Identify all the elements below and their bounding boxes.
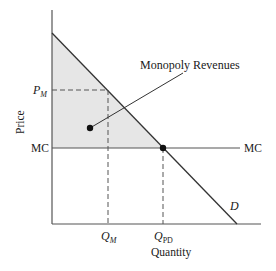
annotation-label: Monopoly Revenues xyxy=(140,58,240,72)
monopoly-diagram: Monopoly Revenues PM MC MC D QM QPD Quan… xyxy=(0,0,276,271)
pm-label: PM xyxy=(32,83,48,99)
annotation-dot xyxy=(87,125,93,131)
qm-label: QM xyxy=(101,229,118,245)
demand-label: D xyxy=(229,199,239,213)
y-axis-title: Price xyxy=(14,110,26,134)
mc-curve-label: MC xyxy=(244,142,262,154)
qpd-label: QPD xyxy=(154,229,173,245)
mc-axis-label: MC xyxy=(31,142,49,154)
equilibrium-dot xyxy=(160,145,166,151)
x-axis-title: Quantity xyxy=(151,246,191,259)
